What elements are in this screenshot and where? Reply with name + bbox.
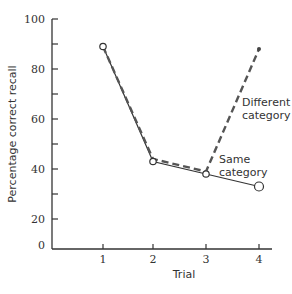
y-axis-title: Percentage correct recall [6,65,19,202]
x-axis-title: Trial [172,268,195,281]
y-axis-ticks: 100806040200 [24,13,58,252]
x-tick-label: 1 [100,253,107,266]
annotation-same-category-line2: category [219,166,268,179]
annotation-same-category-line1: Same [219,153,250,166]
x-tick-label: 4 [256,253,263,266]
y-tick-label: 60 [31,113,45,126]
annotation-different-category-line2: category [242,109,291,122]
y-tick-label: 40 [31,163,45,176]
annotation-different-category-line1: Different [242,96,291,109]
y-tick-label: 0 [38,239,45,252]
line-chart: 100806040200 1234 Percentage correct rec… [0,0,292,294]
y-tick-label: 20 [31,213,45,226]
y-tick-label: 80 [31,63,45,76]
y-tick-label: 100 [24,13,45,26]
x-tick-label: 2 [150,253,157,266]
x-tick-label: 3 [203,253,210,266]
x-axis-ticks: 1234 [100,244,263,266]
